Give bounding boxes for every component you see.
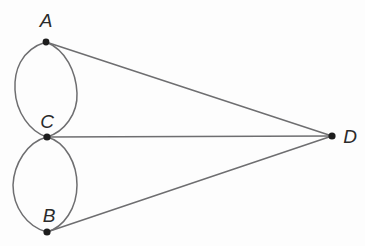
vertex-dot-b [43, 228, 50, 235]
figure-svg: A C B D [0, 0, 365, 246]
vertex-label-c: C [40, 111, 54, 132]
vertex-dot-c [43, 133, 50, 140]
vertex-label-b: B [43, 205, 56, 226]
edge-c-d-line [47, 136, 332, 137]
vertex-dot-d [328, 132, 335, 139]
vertex-label-d: D [343, 126, 357, 147]
edge-b-d-line [47, 136, 332, 232]
vertex-dot-a [43, 39, 50, 46]
edge-a-d-line [46, 42, 332, 136]
geometric-figure-canvas: A C B D [0, 0, 365, 246]
vertex-label-a: A [39, 10, 53, 31]
